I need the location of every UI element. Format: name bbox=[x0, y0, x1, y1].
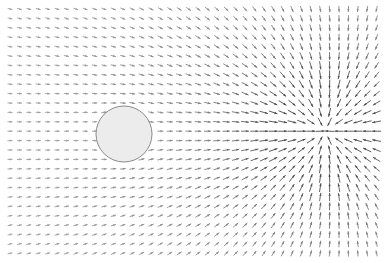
quiver-plot-canvas bbox=[0, 0, 384, 263]
vector-field-figure bbox=[0, 0, 384, 263]
